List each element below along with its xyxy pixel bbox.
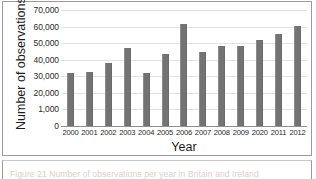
y-axis-tick-label: 70,000	[34, 5, 59, 15]
chart-screenshot: Number of observations 01,00020,00030,00…	[0, 0, 316, 179]
bar	[199, 52, 206, 126]
bar-slot	[212, 10, 231, 126]
x-axis-tick-label: 2002	[99, 128, 118, 140]
x-axis-tick-label: 2003	[118, 128, 137, 140]
x-axis-tick-label: 2012	[288, 128, 307, 140]
y-axis-tick-labels: 01,00020,00030,00040,00050,00060,00070,0…	[19, 10, 61, 126]
x-axis-tick-label: 2020	[250, 128, 269, 140]
bar	[143, 73, 150, 126]
bar-slot	[137, 10, 156, 126]
x-axis-title: Year	[61, 140, 307, 154]
y-axis-tick-label: 40,000	[34, 55, 59, 65]
x-axis-tick-label: 2000	[61, 128, 80, 140]
bar-slot	[156, 10, 175, 126]
bar-slot	[288, 10, 307, 126]
y-axis-tick-label: 20,000	[34, 88, 59, 98]
y-axis-tick-label: 0	[54, 121, 59, 131]
bar-slot	[175, 10, 194, 126]
bar-slot	[231, 10, 250, 126]
bar-slot	[118, 10, 137, 126]
x-axis-tick-label: 2007	[193, 128, 212, 140]
figure-frame: Number of observations 01,00020,00030,00…	[2, 1, 312, 156]
bar	[162, 54, 169, 126]
plot-area	[61, 10, 307, 127]
x-axis-tick-label: 2001	[80, 128, 99, 140]
x-axis-tick-label: 2004	[137, 128, 156, 140]
x-axis-tick-label: 2011	[269, 128, 288, 140]
bar-slot	[61, 10, 80, 126]
bar-slot	[250, 10, 269, 126]
figure-caption-strip: Figure 21 Number of observations per yea…	[2, 160, 312, 179]
bar-slot	[269, 10, 288, 126]
bar	[275, 34, 282, 126]
y-axis-tick-label: 30,000	[34, 71, 59, 81]
bar-slot	[80, 10, 99, 126]
bar	[180, 24, 187, 126]
x-axis-tick-label: 2006	[175, 128, 194, 140]
x-axis-tick-label: 2005	[156, 128, 175, 140]
bar	[237, 46, 244, 126]
bar	[67, 73, 74, 126]
y-axis-tick-label: 50,000	[34, 38, 59, 48]
x-axis-tick-label: 2008	[212, 128, 231, 140]
bar-slot	[99, 10, 118, 126]
x-axis-tick-labels: 2000200120022003200420052006200720082009…	[61, 128, 307, 140]
bar	[218, 46, 225, 126]
bar	[256, 40, 263, 127]
bar	[294, 26, 301, 126]
bar-slot	[193, 10, 212, 126]
bar	[86, 72, 93, 126]
bar	[105, 63, 112, 126]
bar-series	[61, 10, 307, 126]
bar	[124, 48, 131, 126]
y-axis-tick-label: 1,000	[38, 104, 59, 114]
y-axis-tick-label: 60,000	[34, 22, 59, 32]
figure-caption: Figure 21 Number of observations per yea…	[10, 169, 310, 179]
x-axis-tick-label: 2009	[231, 128, 250, 140]
